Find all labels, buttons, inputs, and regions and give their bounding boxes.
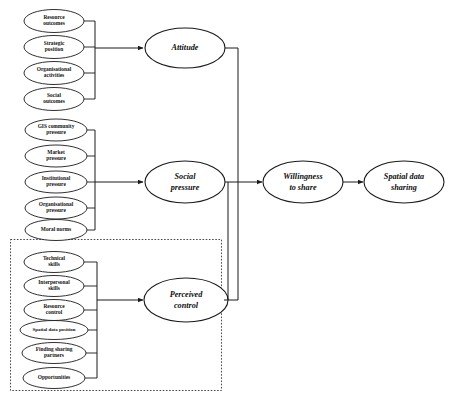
attitude-indicator-group: Resourceoutcomes Strategicposition Organ… <box>24 10 143 111</box>
outcome-label-line2: sharing <box>390 183 417 192</box>
node-institutional-pressure[interactable]: Institutionalpressure <box>25 171 87 193</box>
node-label-line1: Strategicposition <box>44 40 65 52</box>
path-attitude-to-junction <box>224 48 238 300</box>
outcome-spatial-data-sharing[interactable]: Spatial data sharing <box>364 161 444 203</box>
node-market-pressure[interactable]: Marketpressure <box>25 145 87 167</box>
outcome-willingness-to-share[interactable]: Willingness to share <box>263 161 343 203</box>
construct-label-line1: Perceived <box>170 290 204 299</box>
perceived-control-indicator-group: Technicalskills Interpersonalskills Reso… <box>20 252 143 389</box>
outcome-label-line1: Spatial data <box>384 172 424 181</box>
node-resource-outcomes[interactable]: Resourceoutcomes <box>24 10 84 33</box>
node-interpersonal-skills[interactable]: Interpersonalskills <box>24 276 84 297</box>
node-strategic-position[interactable]: Strategicposition <box>24 36 84 59</box>
node-finding-sharing-partners[interactable]: Finding sharingpartners <box>22 343 86 364</box>
construct-social-pressure[interactable]: Social pressure <box>145 161 225 203</box>
node-organisational-pressure[interactable]: Organisationalpressure <box>25 197 87 219</box>
node-spatial-data-position[interactable]: Spatial data position <box>20 321 88 340</box>
node-organisational-activities[interactable]: Organisationalactivities <box>24 62 84 85</box>
node-label-line1: Marketpressure <box>46 149 66 161</box>
node-label-line1: Resourcecontrol <box>43 303 65 315</box>
node-label-line1: Spatial data position <box>33 327 76 332</box>
node-resource-control[interactable]: Resourcecontrol <box>24 300 84 321</box>
spatial-data-sharing-model: Resourceoutcomes Strategicposition Organ… <box>0 0 453 399</box>
node-social-outcomes[interactable]: Socialoutcomes <box>24 88 84 111</box>
node-label-line1: Opportunities <box>38 374 70 380</box>
outcome-label-line2: to share <box>289 183 316 192</box>
outcome-label-line1: Willingness <box>283 172 322 181</box>
construct-label-line2: control <box>174 301 199 310</box>
construct-label-line2: pressure <box>170 183 200 192</box>
social-pressure-indicator-group: GIS communitypressure Marketpressure Ins… <box>25 119 143 241</box>
construct-label-line1: Social <box>175 172 197 181</box>
node-opportunities[interactable]: Opportunities <box>23 368 85 389</box>
node-moral-norms[interactable]: Moral norms <box>25 220 87 241</box>
construct-attitude[interactable]: Attitude <box>145 28 225 68</box>
node-label-line1: Moral norms <box>41 226 71 232</box>
construct-perceived-control[interactable]: Perceived control <box>144 278 228 322</box>
construct-label-line1: Attitude <box>171 43 199 52</box>
diagram-canvas: Resourceoutcomes Strategicposition Organ… <box>0 0 453 399</box>
node-technical-skills[interactable]: Technicalskills <box>24 252 84 273</box>
node-label-line1: Resourceoutcomes <box>43 14 65 26</box>
node-gis-community-pressure[interactable]: GIS communitypressure <box>25 119 87 141</box>
